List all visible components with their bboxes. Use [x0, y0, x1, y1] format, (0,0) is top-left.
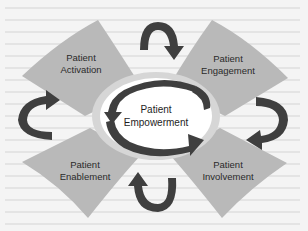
quadrant-engagement-line2: Engagement — [183, 65, 273, 77]
quadrant-enablement: Patient Enablement — [40, 159, 130, 183]
quadrant-activation-line1: Patient — [36, 52, 126, 64]
quadrant-activation-line2: Activation — [36, 64, 126, 76]
quadrant-enablement-line1: Patient — [40, 159, 130, 171]
quadrant-involvement: Patient Involvement — [183, 159, 273, 183]
quadrant-enablement-line2: Enablement — [40, 171, 130, 183]
quadrant-involvement-line1: Patient — [183, 159, 273, 171]
quadrant-activation: Patient Activation — [36, 52, 126, 76]
quadrant-engagement-line1: Patient — [183, 53, 273, 65]
quadrant-involvement-line2: Involvement — [183, 171, 273, 183]
patient-empowerment-diagram: Patient Activation Patient Engagement Pa… — [0, 0, 308, 231]
quadrant-engagement: Patient Engagement — [183, 53, 273, 77]
center-line2: Empowerment — [106, 117, 206, 130]
center-line1: Patient — [106, 104, 206, 117]
center-empowerment: Patient Empowerment — [106, 104, 206, 129]
arrow-activation-to-engagement-icon — [140, 22, 184, 60]
arrow-involvement-to-enablement-icon — [128, 172, 176, 212]
